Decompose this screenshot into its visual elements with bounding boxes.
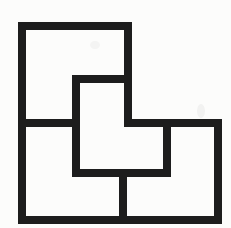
figure-canvas	[0, 0, 231, 228]
scan-smudge-1	[197, 104, 205, 118]
l-tromino-rep-tile-figure	[0, 0, 231, 228]
scan-smudge-2	[90, 41, 100, 49]
